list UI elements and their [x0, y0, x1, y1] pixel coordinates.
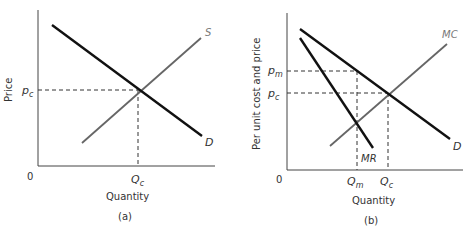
diagram-canvas: S D pc Qc 0 Quantity (a) Price MC D MR p…	[0, 0, 469, 229]
panel-a-xlabel: Quantity	[106, 191, 149, 202]
panel-b-ylabel: Per unit cost and price	[251, 38, 262, 150]
panel-b-qm-label: Qm	[347, 175, 364, 190]
panel-b-mc-label: MC	[442, 29, 458, 40]
panel-b-origin: 0	[276, 174, 282, 185]
panel-b-demand-label: D	[453, 140, 461, 153]
panel-b-pm-label: pm	[267, 64, 283, 79]
panel-a-origin: 0	[27, 171, 33, 182]
panel-b-mr-label: MR	[361, 153, 377, 164]
panel-b-qc-label: Qc	[380, 175, 394, 190]
panel-a-demand-curve	[52, 25, 202, 136]
panel-a-caption: (a)	[118, 211, 132, 222]
panel-a-demand-label: D	[205, 136, 213, 149]
panel-b-demand-curve	[300, 29, 450, 139]
panel-b-xlabel: Quantity	[352, 195, 395, 206]
panel-a-supply-label: S	[205, 27, 212, 38]
panel-a-ylabel: Price	[3, 78, 14, 102]
panel-b-axes	[287, 13, 463, 170]
panel-a-qc-label: Qc	[131, 173, 145, 188]
panel-b-pc-label: pc	[267, 87, 280, 102]
panel-a: S D pc Qc 0 Quantity (a) Price	[3, 10, 215, 222]
panel-a-pc-label: pc	[21, 84, 34, 99]
panel-b-caption: (b)	[364, 215, 378, 226]
panel-b: MC D MR pm pc Qm Qc 0 Quantity (b) Per u…	[251, 13, 463, 226]
